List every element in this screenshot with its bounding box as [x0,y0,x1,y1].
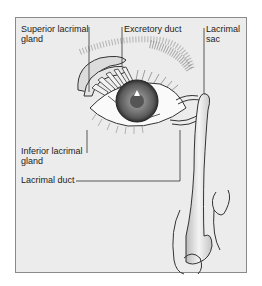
label-excretory-duct: Excretory duct [124,24,182,34]
label-line: gland [21,156,83,166]
eye [90,80,186,126]
label-line: Inferior lacrimal [21,146,83,156]
pupil [130,94,144,108]
label-line: sac [206,34,240,44]
label-lacrimal-sac: Lacrimal sac [206,24,240,44]
label-superior-lacrimal-gland: Superior lacrimal gland [21,24,89,44]
label-line: Superior lacrimal [21,24,89,34]
label-lacrimal-duct: Lacrimal duct [21,175,75,185]
label-line: Lacrimal [206,24,240,34]
label-line: gland [21,34,89,44]
label-inferior-lacrimal-gland: Inferior lacrimal gland [21,146,83,166]
leader-lacrimal-duct [76,130,180,181]
label-line: Lacrimal duct [21,175,75,185]
label-line: Excretory duct [124,24,182,34]
